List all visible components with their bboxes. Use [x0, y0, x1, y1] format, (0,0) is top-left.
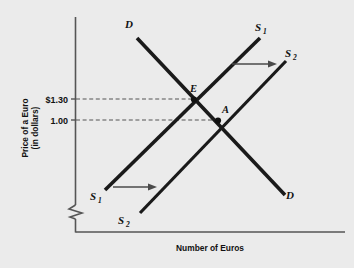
curve-label-s1-top-letter: S	[255, 21, 261, 33]
y-tick-label-high: $1.30	[45, 95, 68, 105]
curve-label-s2-top-sub: 2	[292, 53, 297, 62]
chart-canvas: $1.30 1.00 D D S 1 S 1 S 2 S 2 E A Price…	[0, 0, 354, 268]
curve-label-s2-bottom-letter: S	[118, 214, 124, 226]
curve-label-s1-top-sub: 1	[263, 27, 267, 36]
curve-label-d-bottom: D	[285, 189, 294, 201]
y-tick-label-low: 1.00	[50, 116, 68, 126]
y-axis-title-line2: (in dollars)	[30, 106, 40, 149]
point-label-a: A	[221, 104, 229, 115]
curve-label-d-top: D	[124, 18, 133, 30]
curve-label-s1-bottom-letter: S	[90, 190, 96, 202]
point-marker-e	[191, 96, 197, 102]
supply-demand-figure: $1.30 1.00 D D S 1 S 1 S 2 S 2 E A Price…	[0, 0, 354, 268]
point-label-e: E	[189, 83, 197, 94]
figure-background	[0, 0, 354, 268]
y-axis-title-line1: Price of a Euro	[20, 98, 30, 157]
y-axis-title: Price of a Euro (in dollars)	[20, 98, 40, 157]
point-marker-a	[215, 117, 221, 123]
x-axis-title: Number of Euros	[176, 243, 244, 253]
curve-label-s1-bottom-sub: 1	[98, 196, 102, 205]
curve-label-s2-top-letter: S	[285, 47, 291, 59]
curve-label-s2-bottom-sub: 2	[125, 220, 130, 229]
